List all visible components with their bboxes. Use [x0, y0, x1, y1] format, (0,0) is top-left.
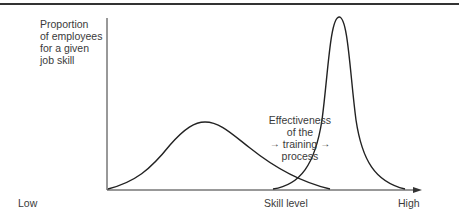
curve-after-training — [273, 17, 405, 189]
arrow-right-icon: → — [320, 138, 330, 150]
annotation-line: Effectiveness — [262, 114, 338, 126]
y-axis-label-line: Proportion — [40, 18, 102, 30]
x-axis-title: Skill level — [264, 197, 308, 209]
annotation-line: process — [262, 150, 338, 162]
arrow-right-icon: → — [270, 138, 280, 150]
y-axis-label-line: of employees — [40, 30, 102, 42]
x-axis-low-label: Low — [18, 197, 37, 209]
y-axis-label-line: job skill — [40, 54, 102, 66]
x-axis-high-label: High — [398, 197, 420, 209]
y-axis-label-line: for a given — [40, 42, 102, 54]
x-axis-arrowhead — [413, 187, 422, 193]
y-axis-label: Proportion of employees for a given job … — [40, 18, 102, 66]
training-annotation: Effectiveness of the → training → proces… — [262, 114, 338, 162]
annotation-line: training — [283, 138, 317, 150]
annotation-line: of the — [262, 126, 338, 138]
annotation-arrow-row: → training → — [262, 138, 338, 150]
